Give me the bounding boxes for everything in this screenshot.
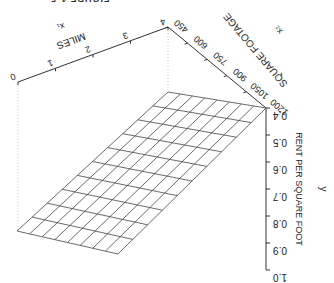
miles-tick-label: 0 <box>9 71 17 82</box>
surface-plot: 01234MILESx₁45060075090010501200SQUARE F… <box>0 0 334 283</box>
sqft-axis-label: SQUARE FOOTAGE <box>221 11 290 90</box>
y-symbol: y <box>318 187 329 192</box>
y-tick-label: 1.0 <box>273 272 287 283</box>
sqft-tick <box>243 92 246 93</box>
miles-axis-label: MILES <box>55 31 87 52</box>
y-tick-label: 0.7 <box>273 191 287 202</box>
x2-symbol: x₂ <box>271 24 284 37</box>
y-tick-label: 0.6 <box>273 164 287 175</box>
y-tick-label: 0.5 <box>273 137 287 148</box>
sqft-tick <box>204 59 207 60</box>
y-tick-label: 0.4 <box>273 110 287 121</box>
miles-tick-label: 1 <box>46 58 54 69</box>
y-tick-label: 0.9 <box>273 245 287 256</box>
sqft-tick-label: 1050 <box>249 81 271 102</box>
miles-tick-label: 2 <box>84 44 92 55</box>
miles-tick-label: 3 <box>121 30 129 41</box>
miles-tick-label: 4 <box>159 16 167 27</box>
sqft-tick <box>185 43 188 44</box>
surface-mesh <box>17 92 266 254</box>
x1-symbol: x₁ <box>56 21 67 33</box>
y-axis-label: RENT PER SQUARE FOOT <box>294 132 304 246</box>
y-tick-label: 0.8 <box>273 218 287 229</box>
chart-figure: FIGURE 1-5 01234MILESx₁45060075090010501… <box>0 0 334 283</box>
sqft-tick <box>224 76 227 77</box>
